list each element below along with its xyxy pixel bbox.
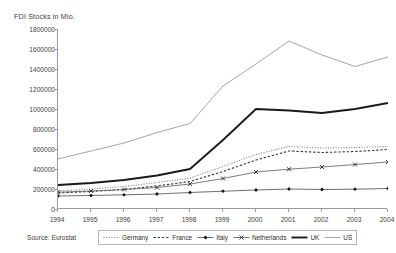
x-axis-tick-label: 2003 bbox=[347, 216, 362, 223]
series-marker-diamond bbox=[254, 188, 258, 192]
x-axis-tick-label: 2001 bbox=[281, 216, 296, 223]
y-axis-tick-label: 1000000 bbox=[29, 106, 55, 113]
series-marker-diamond bbox=[122, 193, 126, 197]
legend-label: Germany bbox=[122, 234, 148, 241]
x-axis-tick bbox=[387, 209, 388, 212]
y-axis-tick-label: 1200000 bbox=[29, 86, 55, 93]
x-axis-tick-label: 2002 bbox=[314, 216, 329, 223]
x-axis-tick bbox=[321, 209, 322, 212]
legend-item-france[interactable]: France bbox=[153, 233, 192, 242]
x-axis-tick-label: 1999 bbox=[215, 216, 230, 223]
y-axis-tick-label: 1600000 bbox=[29, 46, 55, 53]
x-axis-tick bbox=[123, 209, 124, 212]
legend-item-us[interactable]: US bbox=[324, 233, 352, 242]
x-axis-tick-label: 2000 bbox=[248, 216, 263, 223]
x-axis-tick-label: 1998 bbox=[182, 216, 197, 223]
legend-item-germany[interactable]: Germany bbox=[103, 233, 148, 242]
y-axis-tick-label: 1400000 bbox=[29, 66, 55, 73]
x-axis-tick-label: 1995 bbox=[83, 216, 98, 223]
x-axis-tick bbox=[222, 209, 223, 212]
legend-label: UK bbox=[310, 234, 319, 241]
y-axis-tick-label: 600000 bbox=[33, 146, 55, 153]
y-axis-tick-label: 200000 bbox=[33, 186, 55, 193]
series-line bbox=[58, 147, 388, 192]
legend-swatch-icon bbox=[197, 233, 214, 242]
legend-label: France bbox=[172, 234, 192, 241]
series-line bbox=[58, 150, 388, 194]
series-marker-diamond bbox=[320, 188, 324, 192]
series-france bbox=[58, 150, 388, 194]
series-us bbox=[58, 41, 388, 159]
legend-label: Italy bbox=[216, 234, 228, 241]
series-marker-diamond bbox=[221, 189, 225, 193]
series-line bbox=[58, 41, 388, 159]
series-marker-diamond bbox=[287, 187, 291, 191]
series-marker-diamond bbox=[353, 187, 357, 191]
series-uk bbox=[58, 103, 388, 185]
series-germany bbox=[58, 147, 388, 192]
legend-swatch-icon bbox=[291, 233, 308, 242]
chart-container: FDI Stocks in Mio. 020000040000060000080… bbox=[0, 0, 396, 253]
chart-legend: GermanyFranceItalyNetherlandsUKUS bbox=[98, 230, 357, 245]
legend-item-uk[interactable]: UK bbox=[291, 233, 319, 242]
legend-item-italy[interactable]: Italy bbox=[197, 233, 228, 242]
legend-item-netherlands[interactable]: Netherlands bbox=[233, 233, 286, 242]
chart-axis-title: FDI Stocks in Mio. bbox=[14, 12, 75, 21]
x-axis-tick-label: 2004 bbox=[380, 216, 395, 223]
x-axis-tick-label: 1994 bbox=[50, 216, 65, 223]
x-axis-tick-label: 1997 bbox=[149, 216, 164, 223]
series-line bbox=[58, 103, 388, 185]
x-axis-tick bbox=[354, 209, 355, 212]
x-axis-tick bbox=[255, 209, 256, 212]
legend-swatch-icon bbox=[233, 233, 250, 242]
legend-swatch-icon bbox=[324, 233, 341, 242]
legend-swatch-icon bbox=[153, 233, 170, 242]
x-axis-tick bbox=[90, 209, 91, 212]
series-canvas bbox=[58, 29, 388, 209]
legend-swatch-icon bbox=[103, 233, 120, 242]
series-marker-diamond bbox=[386, 187, 388, 191]
x-axis-tick bbox=[57, 209, 58, 212]
x-axis-tick bbox=[288, 209, 289, 212]
y-axis-tick-label: 800000 bbox=[33, 126, 55, 133]
legend-label: US bbox=[343, 234, 352, 241]
legend-label: Netherlands bbox=[252, 234, 286, 241]
series-marker-diamond bbox=[89, 194, 93, 198]
series-marker-diamond bbox=[58, 194, 60, 198]
y-axis-tick-label: 400000 bbox=[33, 166, 55, 173]
x-axis-tick bbox=[156, 209, 157, 212]
source-label: Source: Eurostat bbox=[27, 234, 76, 241]
y-axis-tick-label: 1800000 bbox=[29, 26, 55, 33]
series-marker-diamond bbox=[155, 192, 159, 196]
x-axis-tick bbox=[189, 209, 190, 212]
plot-area bbox=[57, 29, 387, 209]
x-axis-tick-label: 1996 bbox=[116, 216, 131, 223]
series-marker-diamond bbox=[188, 191, 192, 195]
